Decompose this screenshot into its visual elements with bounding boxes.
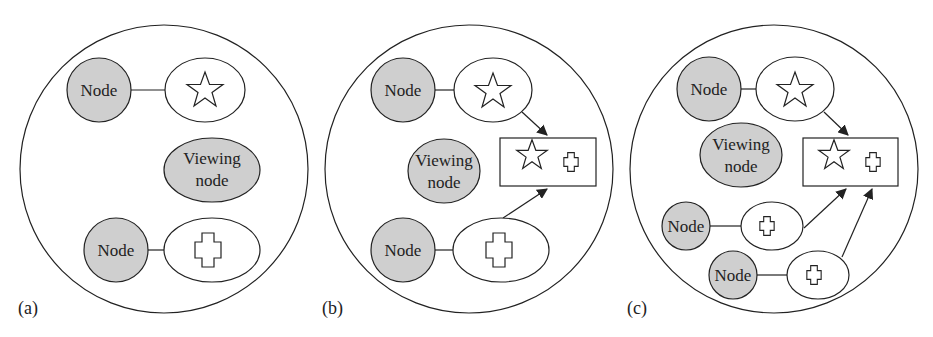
viewing-node-label-2: node bbox=[195, 171, 228, 190]
viewing-node-label-2: node bbox=[724, 157, 757, 176]
node-label: Node bbox=[691, 80, 728, 99]
arrow bbox=[824, 112, 848, 135]
node-label: Node bbox=[98, 241, 135, 260]
arrow bbox=[804, 189, 846, 228]
viewing-node-label-2: node bbox=[427, 173, 460, 192]
node-label: Node bbox=[385, 241, 422, 260]
viewing-node-label-1: Viewing bbox=[415, 151, 473, 170]
composite-view-box bbox=[803, 138, 898, 186]
panel-c: Node Viewing node Node Node (c) bbox=[627, 25, 918, 319]
panel-a: Node Viewing node Node (a) bbox=[18, 25, 308, 319]
viewing-node-label-1: Viewing bbox=[183, 149, 241, 168]
panel-label: (a) bbox=[18, 298, 38, 319]
viewing-node-label-1: Viewing bbox=[712, 135, 770, 154]
panel-label: (c) bbox=[627, 298, 647, 319]
composite-view-box bbox=[500, 138, 596, 186]
node-label: Node bbox=[668, 217, 705, 236]
arrow bbox=[522, 112, 547, 135]
arrow bbox=[503, 189, 547, 218]
panel-label: (b) bbox=[322, 298, 343, 319]
viewing-node bbox=[408, 139, 480, 203]
viewing-node bbox=[164, 138, 260, 202]
node-label: Node bbox=[385, 81, 422, 100]
node-label: Node bbox=[81, 81, 118, 100]
figure: Node Viewing node Node (a) Node Viewing bbox=[0, 0, 933, 337]
panel-b: Node Viewing node Node (b) bbox=[322, 25, 613, 319]
viewing-node bbox=[700, 123, 782, 187]
node-label: Node bbox=[715, 266, 752, 285]
arrow bbox=[842, 189, 872, 257]
